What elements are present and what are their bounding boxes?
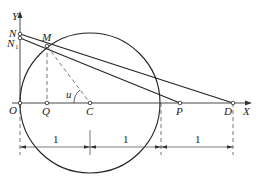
label-u: u <box>66 88 72 100</box>
diagram-canvas: Y N N 1 M u O Q C P D X 1 1 1 <box>0 0 259 190</box>
geometry-diagram: Y N N 1 M u O Q C P D X 1 1 1 <box>0 0 259 190</box>
label-X: X <box>242 105 251 117</box>
point-N <box>18 32 22 36</box>
label-C: C <box>86 105 94 117</box>
dimension-1-a: 1 <box>53 133 59 145</box>
label-D: D <box>223 105 232 117</box>
label-N1-subscript: 1 <box>15 43 19 51</box>
label-O: O <box>9 104 17 116</box>
label-P: P <box>175 105 183 117</box>
angle-arc-u <box>74 90 80 103</box>
point-O <box>18 101 22 105</box>
dimension-1-c: 1 <box>195 133 201 145</box>
point-M <box>45 44 49 48</box>
label-M: M <box>41 31 52 43</box>
point-N1 <box>18 36 22 40</box>
dimension-1-b: 1 <box>123 133 129 145</box>
label-Q: Q <box>42 105 50 117</box>
line-N-D <box>20 34 233 103</box>
y-axis-arrow <box>18 11 23 18</box>
label-N1: N <box>6 37 15 49</box>
line-N1-P <box>20 38 180 103</box>
